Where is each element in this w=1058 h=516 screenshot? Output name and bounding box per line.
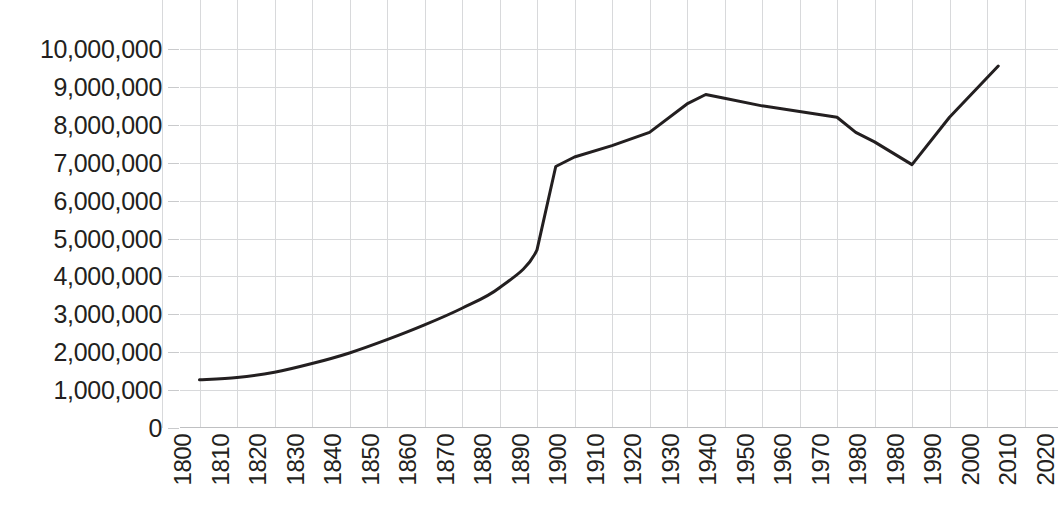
x-tick-label-2: 1820 — [246, 434, 270, 485]
y-tick-label-9000000: 9,000,000 — [53, 74, 162, 99]
y-tick-dash-1000000 — [168, 390, 179, 391]
y-tick-label-5000000: 5,000,000 — [53, 226, 162, 251]
y-tick-dash-6000000 — [168, 201, 179, 202]
y-tick-label-1000000: 1,000,000 — [53, 378, 162, 403]
y-tick-dash-3000000 — [168, 314, 179, 315]
y-tick-dash-2000000 — [168, 352, 179, 353]
x-tick-label-7: 1870 — [434, 434, 458, 485]
y-tick-dash-0 — [168, 428, 179, 429]
y-tick-label-10000000: 10,000,000 — [40, 37, 162, 62]
y-tick-dash-7000000 — [168, 163, 179, 164]
y-tick-dash-10000000 — [168, 49, 179, 50]
y-tick-dash-9000000 — [168, 87, 179, 88]
x-tick-label-9: 1890 — [509, 434, 533, 485]
y-tick-label-3000000: 3,000,000 — [53, 302, 162, 327]
x-tick-label-8: 1880 — [471, 434, 495, 485]
x-tick-label-3: 1830 — [284, 434, 308, 485]
y-tick-dash-8000000 — [168, 125, 179, 126]
line-chart: 01,000,0002,000,0003,000,0004,000,0005,0… — [0, 0, 1058, 516]
x-tick-label-15: 1950 — [734, 434, 758, 485]
x-tick-label-5: 1850 — [359, 434, 383, 485]
x-tick-label-17: 1970 — [809, 434, 833, 485]
x-tick-label-0: 1800 — [171, 434, 195, 485]
x-tick-label-18: 1980 — [846, 434, 870, 485]
x-axis: 1800181018201830184018501860187018801890… — [180, 430, 1058, 516]
x-tick-label-16: 1960 — [771, 434, 795, 485]
y-tick-label-2000000: 2,000,000 — [53, 340, 162, 365]
gridline-v-1800 — [162, 0, 163, 428]
x-tick-label-19: 1980 — [884, 434, 908, 485]
x-tick-label-1: 1810 — [209, 434, 233, 485]
data-series-population — [180, 0, 1058, 428]
x-tick-label-22: 2010 — [996, 434, 1020, 485]
y-tick-dash-4000000 — [168, 276, 179, 277]
x-tick-label-12: 1920 — [621, 434, 645, 485]
x-tick-label-11: 1910 — [584, 434, 608, 485]
y-tick-label-8000000: 8,000,000 — [53, 112, 162, 137]
y-tick-label-7000000: 7,000,000 — [53, 150, 162, 175]
x-tick-label-23: 2020 — [1034, 434, 1058, 485]
y-axis: 01,000,0002,000,0003,000,0004,000,0005,0… — [0, 0, 172, 440]
x-tick-label-4: 1840 — [321, 434, 345, 485]
plot-area — [180, 0, 1058, 428]
x-tick-label-13: 1930 — [659, 434, 683, 485]
y-tick-label-4000000: 4,000,000 — [53, 264, 162, 289]
x-tick-label-6: 1860 — [396, 434, 420, 485]
x-tick-label-10: 1900 — [546, 434, 570, 485]
x-tick-label-20: 1990 — [921, 434, 945, 485]
y-tick-dash-5000000 — [168, 239, 179, 240]
x-tick-label-21: 2000 — [959, 434, 983, 485]
y-tick-label-0: 0 — [148, 416, 162, 441]
x-tick-label-14: 1940 — [696, 434, 720, 485]
population-line — [200, 66, 999, 380]
y-tick-label-6000000: 6,000,000 — [53, 188, 162, 213]
